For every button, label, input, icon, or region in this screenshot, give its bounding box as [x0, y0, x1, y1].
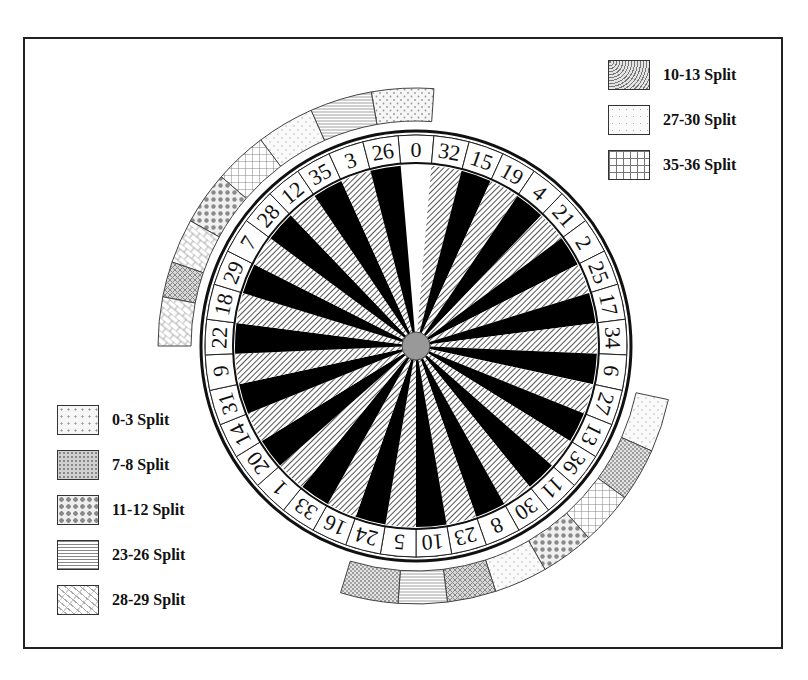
pattern-swatch-diamond-dots-icon — [57, 495, 99, 525]
legend-item: 7-8 Split — [57, 450, 185, 480]
split-arc-segment — [158, 297, 195, 346]
pocket-number-label: 22 — [206, 326, 232, 349]
legend-item: 35-36 Split — [608, 150, 736, 180]
pocket-number-label: 32 — [436, 138, 462, 166]
legend-label: 7-8 Split — [112, 456, 169, 474]
pattern-swatch-light-dots-icon — [608, 105, 650, 135]
pattern-swatch-brick-icon — [57, 585, 99, 615]
pattern-swatch-sparse-dots-icon — [57, 405, 99, 435]
legend-item: 10-13 Split — [608, 60, 736, 90]
pattern-swatch-grid-icon — [608, 150, 650, 180]
split-arc-segment — [341, 561, 401, 603]
legend-label: 0-3 Split — [112, 411, 169, 429]
legend-label: 23-26 Split — [112, 546, 185, 564]
split-arc-segment — [398, 569, 447, 604]
legend-item: 11-12 Split — [57, 495, 185, 525]
legend-item: 27-30 Split — [608, 105, 736, 135]
pocket-number-label: 0 — [411, 137, 422, 162]
pattern-swatch-checker-icon — [57, 450, 99, 480]
legend-item: 23-26 Split — [57, 540, 185, 570]
split-arc-segment — [371, 88, 434, 124]
legend-top-right: 10-13 Split 27-30 Split 35-36 Split — [608, 60, 736, 195]
pocket-number-label: 5 — [393, 529, 406, 555]
legend-label: 35-36 Split — [663, 156, 736, 174]
pocket-number-label: 34 — [600, 326, 626, 349]
legend-label: 28-29 Split — [112, 591, 185, 609]
legend-item: 28-29 Split — [57, 585, 185, 615]
wheel-hub — [402, 332, 430, 360]
legend-label: 27-30 Split — [663, 111, 736, 129]
split-arc-segment — [443, 560, 495, 602]
legend-item: 0-3 Split — [57, 405, 185, 435]
legend-bottom-left: 0-3 Split 7-8 Split 11-12 Split 23-26 Sp… — [57, 405, 185, 630]
pattern-swatch-dense-dots-icon — [608, 60, 650, 90]
pocket-number-label: 26 — [370, 138, 396, 166]
legend-label: 11-12 Split — [112, 501, 184, 519]
pocket-number-label: 10 — [421, 529, 445, 556]
pattern-swatch-horizontal-lines-icon — [57, 540, 99, 570]
legend-label: 10-13 Split — [663, 66, 736, 84]
